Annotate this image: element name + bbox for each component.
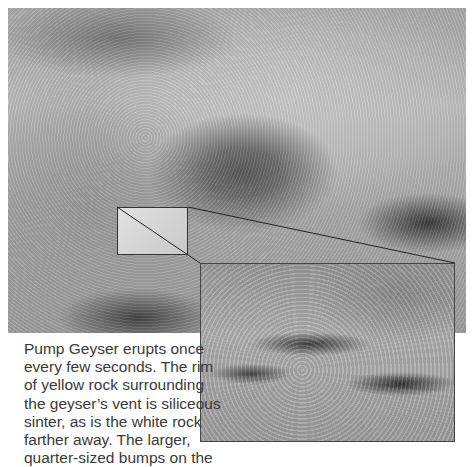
- caption-line: Pump Geyser erupts once: [24, 340, 199, 358]
- caption-line: sinter, as is the white rock: [24, 413, 199, 431]
- inset-closeup-photo: [200, 263, 455, 442]
- caption-line: the geyser’s vent is siliceous: [24, 395, 199, 413]
- caption-line: quarter-sized bumps on the: [24, 449, 199, 467]
- figure-caption: Pump Geyser erupts once every few second…: [24, 340, 199, 467]
- caption-line: every few seconds. The rim: [24, 358, 199, 376]
- caption-line: farther away. The larger,: [24, 431, 199, 449]
- caption-line: of yellow rock surrounding: [24, 376, 199, 394]
